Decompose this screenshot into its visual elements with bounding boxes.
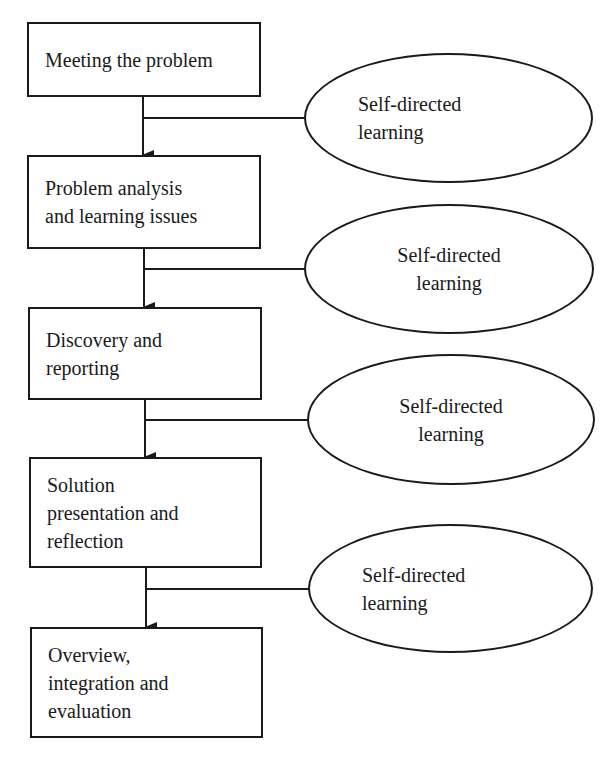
self-directed-learning-node-1: Self-directed learning xyxy=(304,53,593,183)
step-label: Problem analysis and learning issues xyxy=(45,174,197,230)
node-label: Self-directed learning xyxy=(399,392,502,448)
step-solution-presentation: Solution presentation and reflection xyxy=(29,457,262,568)
self-directed-learning-node-4: Self-directed learning xyxy=(308,524,593,653)
step-overview-integration: Overview, integration and evaluation xyxy=(30,627,263,738)
node-label: Self-directed learning xyxy=(358,90,461,146)
step-label: Meeting the problem xyxy=(45,46,213,74)
step-label: Discovery and reporting xyxy=(46,326,162,382)
step-label: Overview, integration and evaluation xyxy=(48,641,169,725)
step-discovery-reporting: Discovery and reporting xyxy=(28,307,262,400)
step-meeting-the-problem: Meeting the problem xyxy=(27,22,261,97)
step-label: Solution presentation and reflection xyxy=(47,471,179,555)
node-label: Self-directed learning xyxy=(397,241,500,297)
node-label: Self-directed learning xyxy=(362,561,465,617)
step-problem-analysis: Problem analysis and learning issues xyxy=(27,155,261,249)
self-directed-learning-node-3: Self-directed learning xyxy=(307,354,595,485)
self-directed-learning-node-2: Self-directed learning xyxy=(304,204,594,334)
